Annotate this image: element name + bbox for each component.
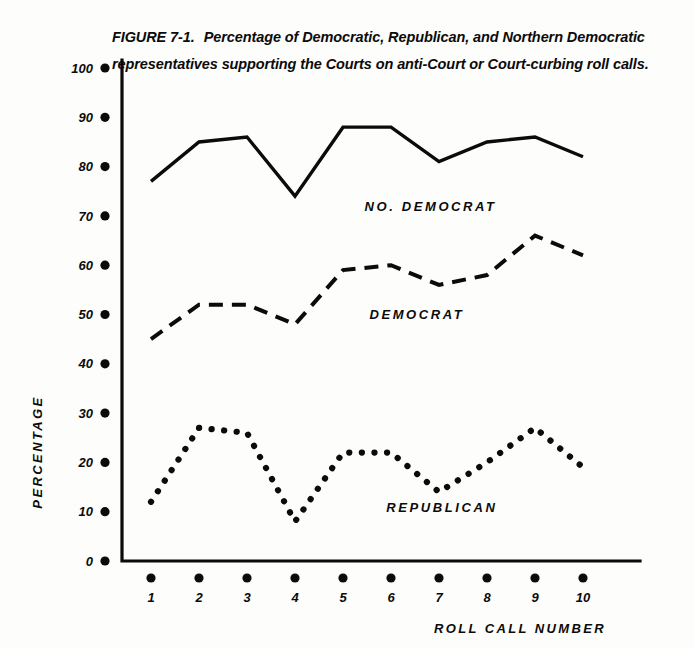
y-axis-title: PERCENTAGE <box>30 395 45 508</box>
y-tick-label: 20 <box>78 455 94 470</box>
y-tick-dot <box>100 113 109 122</box>
y-tick-dot <box>100 162 109 171</box>
x-tick-dot <box>434 573 443 582</box>
x-tick-dot <box>338 573 347 582</box>
x-tick-dot <box>578 573 587 582</box>
y-tick-label: 30 <box>79 406 94 421</box>
x-tick-label: 10 <box>576 590 591 605</box>
x-tick-label: 3 <box>243 590 251 605</box>
y-tick-dot <box>100 261 109 270</box>
x-tick-label: 9 <box>531 590 539 605</box>
x-tick-label: 7 <box>435 590 443 605</box>
x-tick-dot <box>146 573 155 582</box>
y-tick-dot <box>100 211 109 220</box>
x-tick-dot <box>242 573 251 582</box>
x-tick-dot <box>482 573 491 582</box>
y-tick-dot <box>100 310 109 319</box>
x-tick-label: 4 <box>290 590 299 605</box>
y-tick-dot <box>100 507 109 516</box>
x-tick-label: 2 <box>194 590 203 605</box>
y-tick-label: 40 <box>78 356 94 371</box>
y-tick-dot <box>100 63 109 72</box>
line-chart: 010203040506070809010012345678910PERCENT… <box>0 0 695 648</box>
series-label-no-democrat: NO. DEMOCRAT <box>365 199 497 214</box>
y-tick-dot <box>100 556 109 565</box>
y-tick-label: 100 <box>71 61 93 76</box>
series-label-democrat: DEMOCRAT <box>369 307 464 322</box>
series-line-democrat <box>151 236 583 340</box>
y-tick-label: 50 <box>79 307 94 322</box>
y-tick-label: 80 <box>79 159 94 174</box>
y-tick-dot <box>100 458 109 467</box>
y-tick-label: 60 <box>79 258 94 273</box>
y-tick-dot <box>100 359 109 368</box>
series-line-republican <box>151 428 583 522</box>
y-tick-dot <box>100 409 109 418</box>
x-tick-label: 5 <box>339 590 347 605</box>
x-tick-label: 1 <box>147 590 154 605</box>
figure-container: FIGURE 7-1.Percentage of Democratic, Rep… <box>0 0 695 648</box>
x-tick-dot <box>194 573 203 582</box>
series-label-republican: REPUBLICAN <box>386 500 497 515</box>
y-tick-label: 70 <box>79 209 94 224</box>
x-tick-dot <box>386 573 395 582</box>
x-tick-label: 8 <box>483 590 491 605</box>
y-tick-label: 90 <box>79 110 94 125</box>
y-tick-label: 0 <box>86 554 94 569</box>
x-axis-title: ROLL CALL NUMBER <box>434 621 606 636</box>
series-line-no-democrat <box>151 127 583 196</box>
x-tick-dot <box>290 573 299 582</box>
y-tick-label: 10 <box>79 504 94 519</box>
x-tick-dot <box>530 573 539 582</box>
x-tick-label: 6 <box>387 590 395 605</box>
